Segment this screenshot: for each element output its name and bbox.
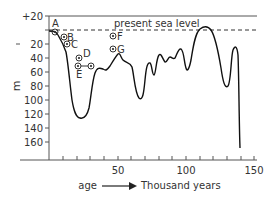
- y-tick-label: +20: [22, 11, 43, 22]
- label-G: G: [117, 44, 125, 55]
- marker-D: [76, 55, 82, 61]
- x-axis-label-age: age: [78, 180, 97, 191]
- marker-G: [110, 46, 116, 52]
- y-tick-label: 160: [24, 137, 43, 148]
- y-axis-label: m: [10, 81, 23, 92]
- label-E: E: [76, 69, 82, 80]
- y-tick-label: 60: [30, 67, 43, 78]
- label-F: F: [117, 31, 123, 42]
- y-tick-label: 120: [24, 109, 43, 120]
- x-tick-labels: 50 100 150: [112, 165, 264, 176]
- label-A: A: [52, 18, 59, 29]
- label-D: D: [83, 48, 91, 59]
- marker-F: [110, 33, 116, 39]
- y-tick-label: 140: [24, 123, 43, 134]
- y-tick-label: 100: [24, 95, 43, 106]
- x-tick-label: 50: [112, 165, 125, 176]
- x-tick-label: 150: [244, 165, 263, 176]
- x-tick-label: 100: [176, 165, 195, 176]
- y-tick-label: 20: [30, 39, 43, 50]
- y-tick-labels: +20 20 40 60 80 100 120 140 160: [22, 11, 43, 148]
- arrow-right-icon: [102, 182, 137, 190]
- marker-A: [52, 29, 58, 35]
- y-tick-label: 40: [30, 53, 43, 64]
- x-axis-label-unit: Thousand years: [140, 180, 221, 191]
- sea-level-chart: +20 20 40 60 80 100 120 140 160 m 50 100…: [0, 0, 277, 201]
- axes: [20, 16, 257, 160]
- present-sea-level-label: present sea level: [114, 18, 200, 29]
- label-C: C: [71, 39, 78, 50]
- y-tick-label: 80: [30, 81, 43, 92]
